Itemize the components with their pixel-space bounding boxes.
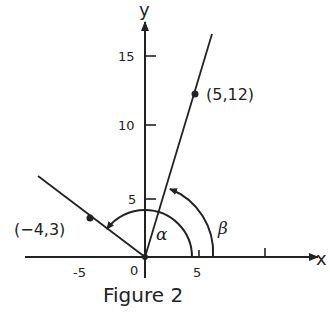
alpha-label: α xyxy=(156,224,168,244)
point-label-neg4-3: (−4,3) xyxy=(14,220,65,239)
point-label-5-12: (5,12) xyxy=(206,85,254,104)
y-tick-label-10: 10 xyxy=(118,118,135,133)
origin-point xyxy=(142,254,148,260)
x-tick-label-neg5: -5 xyxy=(73,265,86,280)
beta-label: β xyxy=(217,218,228,238)
y-tick-label-5: 5 xyxy=(128,192,136,207)
figure-2-diagram: y x 15 10 5 -5 5 0 (5,12) (−4,3) α β Fig… xyxy=(0,0,330,312)
x-axis-label: x xyxy=(316,248,327,269)
y-tick-label-15: 15 xyxy=(118,49,135,64)
figure-caption: Figure 2 xyxy=(103,283,183,307)
origin-label: 0 xyxy=(130,263,138,278)
alpha-arc xyxy=(107,210,192,257)
point-neg4-3 xyxy=(87,215,94,222)
point-5-12 xyxy=(192,91,199,98)
x-tick-label-5: 5 xyxy=(193,265,201,280)
y-axis-label: y xyxy=(139,0,150,20)
